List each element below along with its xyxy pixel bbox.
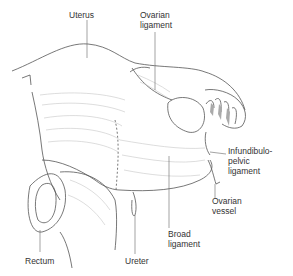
label-rectum: Rectum [25, 256, 54, 266]
label-ureter: Ureter [125, 256, 149, 266]
label-uterus: Uterus [69, 10, 94, 20]
anatomy-drawing [0, 0, 293, 276]
label-ovarian-ligament: Ovarian ligament [140, 10, 172, 30]
label-broad-ligament: Broad ligament [168, 229, 200, 249]
leader-infundibulopelvic [210, 152, 226, 154]
label-infundibulopelvic-ligament: Infundibulo- pelvic ligament [228, 146, 272, 176]
label-ovarian-vessel: Ovarian vessel [212, 196, 242, 216]
anatomy-diagram: Uterus Ovarian ligament Infundibulo- pel… [0, 0, 293, 276]
